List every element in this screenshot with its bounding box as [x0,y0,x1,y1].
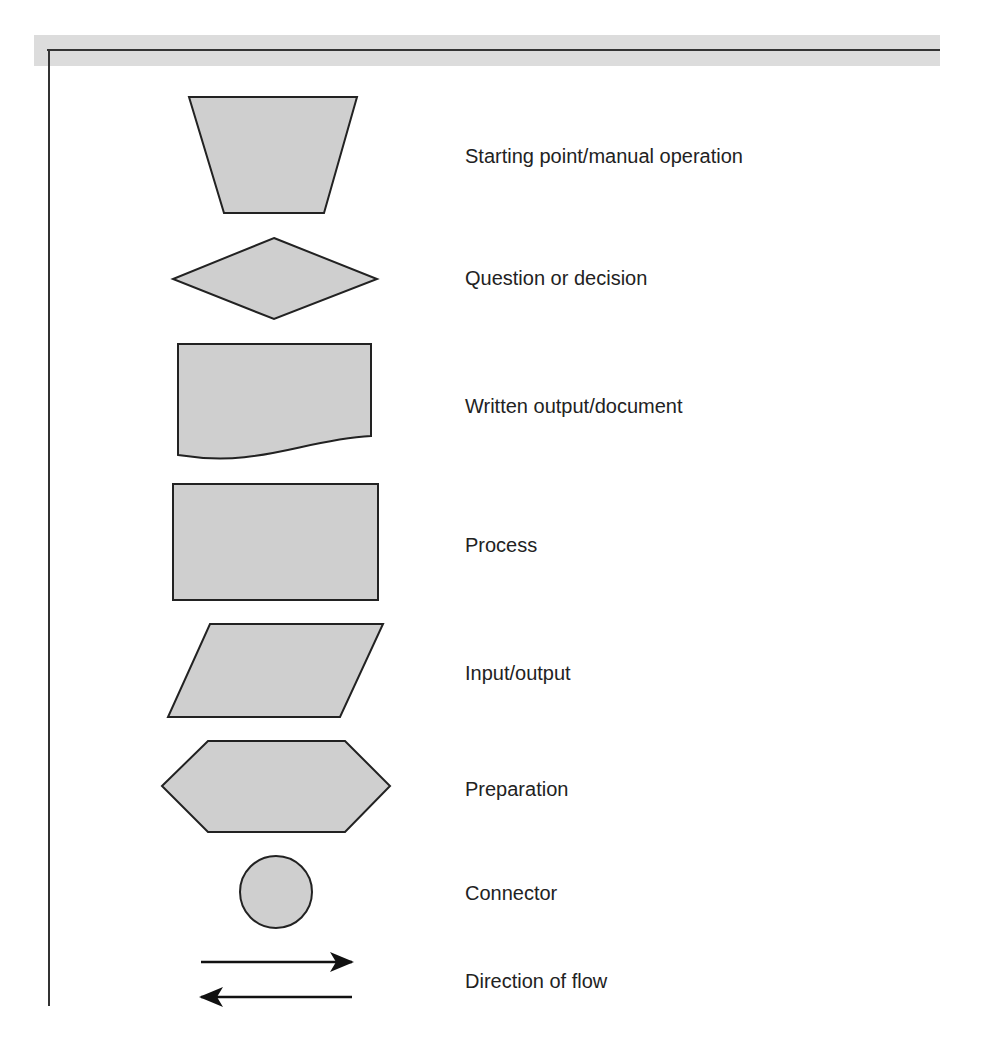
label-process: Process [465,533,537,557]
label-document: Written output/document [465,394,683,418]
trapezoid-icon [189,97,357,213]
label-input-output: Input/output [465,661,571,685]
document-icon [178,344,371,458]
parallelogram-icon [168,624,383,717]
diamond-icon [173,238,377,319]
label-starting-point: Starting point/manual operation [465,144,743,168]
hexagon-icon [162,741,390,832]
circle-icon [240,856,312,928]
label-decision: Question or decision [465,266,647,290]
rectangle-icon [173,484,378,600]
label-preparation: Preparation [465,777,568,801]
label-connector: Connector [465,881,557,905]
label-direction-of-flow: Direction of flow [465,969,607,993]
arrows-icon [201,962,352,997]
